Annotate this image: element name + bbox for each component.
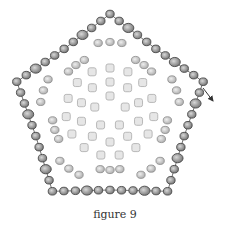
figure-caption: figure 9 xyxy=(0,208,230,221)
bead-star-diagram xyxy=(0,0,230,205)
mid-round-beads xyxy=(37,38,184,178)
arrow-icon xyxy=(203,88,213,101)
inner-square-beads xyxy=(62,64,158,159)
